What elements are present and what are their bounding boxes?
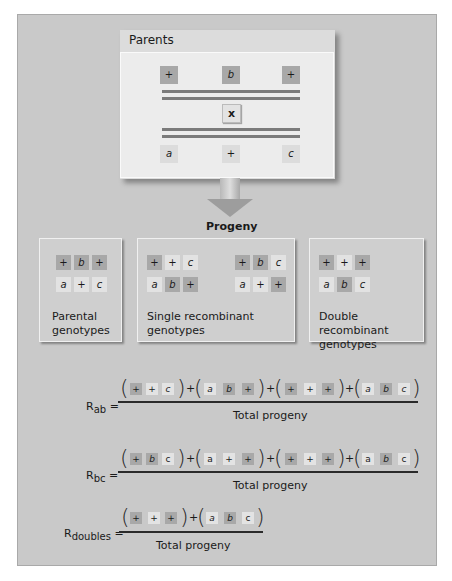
open-paren: (: [353, 447, 362, 469]
label-line: Single recombinant: [147, 310, 254, 324]
allele: b: [253, 255, 268, 270]
double-recombinant-label: Double recombinant genotypes: [319, 310, 423, 352]
open-paren: (: [194, 377, 203, 399]
allele: +: [146, 383, 158, 395]
allele: +: [242, 453, 254, 465]
allele-bottom-3: c: [282, 145, 300, 163]
chromosome-line: [162, 97, 300, 100]
allele: a: [362, 453, 374, 465]
allele-bottom-2: +: [222, 145, 240, 163]
close-paren: ): [412, 377, 421, 399]
allele-top-2: b: [222, 66, 240, 84]
allele: b: [165, 277, 180, 292]
allele-bottom-1: a: [160, 145, 178, 163]
double-recombinant-box: + + + a b c Double recombinant genotypes: [309, 238, 424, 342]
fraction-line: [118, 401, 418, 403]
open-paren: (: [353, 377, 362, 399]
allele: b: [224, 512, 236, 524]
allele: +: [148, 512, 160, 524]
label-line: genotypes: [52, 324, 110, 338]
label-line: genotypes: [319, 338, 423, 352]
equation-label: Rbc =: [86, 469, 118, 484]
allele: +: [285, 453, 297, 465]
allele: +: [74, 277, 89, 292]
allele: a: [235, 277, 250, 292]
allele: a: [204, 383, 216, 395]
allele: c: [242, 512, 254, 524]
open-paren: (: [274, 377, 283, 399]
allele: +: [253, 277, 268, 292]
allele-top-1: +: [160, 66, 178, 84]
allele: +: [355, 255, 370, 270]
close-paren: ): [177, 377, 186, 399]
single-recombinant-box: + + c a b + + b c a + + Single recombina…: [137, 238, 295, 342]
allele: +: [285, 383, 297, 395]
allele: +: [130, 453, 142, 465]
open-paren: (: [120, 447, 129, 469]
allele: +: [165, 255, 180, 270]
chromosome-line: [162, 128, 300, 131]
allele: +: [322, 383, 334, 395]
allele: b: [337, 277, 352, 292]
cross-symbol: x: [222, 104, 241, 123]
parental-label: Parental genotypes: [52, 310, 110, 338]
allele: c: [92, 277, 107, 292]
label-line: Double recombinant: [319, 310, 423, 338]
denominator: Total progeny: [156, 539, 230, 552]
allele: a: [56, 277, 71, 292]
allele: +: [130, 383, 142, 395]
parents-card: Parents + b + x a + c: [120, 30, 335, 179]
down-arrow-head-icon: [207, 199, 253, 217]
allele: +: [304, 383, 316, 395]
allele: c: [398, 453, 410, 465]
allele-top-3: +: [282, 66, 300, 84]
label-line: genotypes: [147, 324, 254, 338]
allele: b: [223, 383, 235, 395]
allele: c: [162, 453, 174, 465]
chromosome-line: [162, 90, 300, 93]
allele: +: [337, 255, 352, 270]
allele: +: [322, 453, 334, 465]
allele: +: [223, 453, 235, 465]
allele: a: [206, 512, 218, 524]
denominator: Total progeny: [233, 409, 307, 422]
parents-title: Parents: [129, 33, 174, 47]
allele: c: [398, 383, 410, 395]
allele: a: [147, 277, 162, 292]
allele: c: [183, 255, 198, 270]
allele: +: [165, 512, 177, 524]
allele: +: [271, 277, 286, 292]
progeny-title: Progeny: [206, 220, 257, 233]
close-paren: ): [257, 447, 266, 469]
equation-label: Rdoubles =: [64, 527, 124, 542]
allele: +: [319, 255, 334, 270]
allele: a: [362, 383, 374, 395]
allele: c: [271, 255, 286, 270]
allele: c: [162, 383, 174, 395]
fraction-line: [118, 471, 418, 473]
allele: +: [130, 512, 142, 524]
allele: c: [355, 277, 370, 292]
single-recombinant-label: Single recombinant genotypes: [147, 310, 254, 338]
allele: b: [380, 383, 392, 395]
allele: +: [235, 255, 250, 270]
close-paren: ): [177, 447, 186, 469]
allele: b: [146, 453, 158, 465]
denominator: Total progeny: [233, 479, 307, 492]
close-paren: ): [180, 506, 189, 528]
open-paren: (: [121, 506, 130, 528]
open-paren: (: [194, 447, 203, 469]
close-paren: ): [256, 506, 265, 528]
allele: +: [304, 453, 316, 465]
open-paren: (: [274, 447, 283, 469]
allele: +: [147, 255, 162, 270]
fraction-line: [119, 531, 263, 533]
close-paren: ): [412, 447, 421, 469]
parents-cross: + b + x a + c: [120, 52, 334, 178]
close-paren: ): [257, 377, 266, 399]
allele: +: [183, 277, 198, 292]
allele: b: [380, 453, 392, 465]
allele: +: [56, 255, 71, 270]
allele: a: [319, 277, 334, 292]
allele: a: [204, 453, 216, 465]
